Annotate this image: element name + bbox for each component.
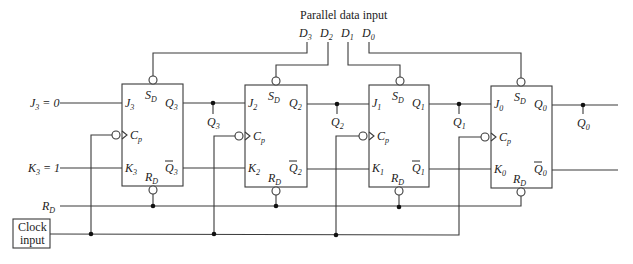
clock-label-line2: input (20, 233, 45, 247)
clock-bubble-icon (481, 133, 489, 141)
sd-bubble-icon (396, 77, 404, 85)
jk-shift-register-diagram: Parallel data input D3 D2 D1 D0 SD J3 Q3… (0, 0, 633, 264)
q2-output-label: Q2 (331, 115, 344, 131)
q0-output-label: Q0 (577, 116, 590, 132)
rd-input-label: RD (41, 199, 55, 215)
data-input-wires (153, 42, 521, 78)
q1-output-label: Q1 (453, 115, 466, 131)
svg-text:D2: D2 (319, 26, 333, 42)
svg-text:D0: D0 (361, 26, 375, 42)
j3-input-label: J3 = 0 (30, 96, 59, 112)
clock-bubble-icon (112, 131, 120, 139)
svg-text:D3: D3 (298, 26, 312, 42)
rd-bubble-icon (517, 188, 525, 196)
flipflop-0: SD J0 Q0 Cp K0 Q0 RD (481, 78, 552, 196)
sd-bubble-icon (517, 78, 525, 86)
rd-bubble-icon (395, 187, 403, 195)
data-input-labels: D3 D2 D1 D0 (298, 26, 375, 42)
parallel-data-title: Parallel data input (300, 8, 388, 22)
q3-output-label: Q3 (207, 115, 220, 131)
svg-text:D1: D1 (340, 26, 354, 42)
flipflop-2: SD J2 Q2 Cp K2 Q2 RD (235, 77, 307, 195)
clock-bubble-icon (359, 132, 367, 140)
flipflop-3: SD J3 Q3 Cp K3 Q3 RD (112, 76, 183, 194)
left-inputs: J3 = 0 K3 = 1 RD (27, 96, 122, 215)
rd-bubble-icon (272, 187, 280, 195)
k3-input-label: K3 = 1 (27, 161, 60, 177)
sd-bubble-icon (272, 77, 280, 85)
reset-bus (60, 194, 521, 209)
sd-bubble-icon (149, 76, 157, 84)
clock-label-line1: Clock (18, 220, 47, 234)
rd-bubble-icon (149, 186, 157, 194)
flipflop-1: SD J1 Q1 Cp K1 Q1 RD (359, 77, 429, 195)
clock-bubble-icon (235, 132, 243, 140)
